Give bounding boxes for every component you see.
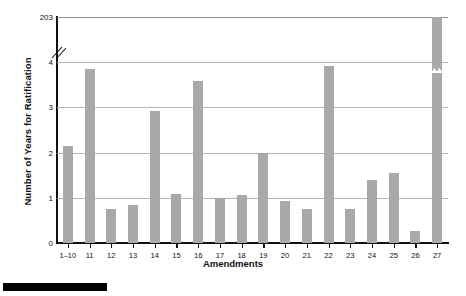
y-tick-label: 4 xyxy=(49,58,53,67)
bar-axis-break-icon xyxy=(432,59,442,66)
x-tick-mark xyxy=(155,243,156,248)
y-tick-label: 0 xyxy=(49,239,53,248)
top-rule xyxy=(57,17,448,18)
x-tick-mark xyxy=(220,243,221,248)
y-tick-label: 203 xyxy=(40,13,53,22)
bar xyxy=(258,153,268,244)
decorative-black-bar xyxy=(3,283,107,291)
x-tick-mark xyxy=(68,243,69,248)
x-tick-mark xyxy=(111,243,112,248)
bar xyxy=(389,173,399,243)
bar xyxy=(432,17,442,243)
x-tick-mark xyxy=(415,243,416,248)
x-tick-mark xyxy=(242,243,243,248)
bar xyxy=(345,209,355,243)
gridline xyxy=(57,153,448,154)
x-tick-mark xyxy=(372,243,373,248)
bar xyxy=(237,195,247,243)
x-tick-mark xyxy=(133,243,134,248)
bar xyxy=(128,205,138,243)
x-tick-mark xyxy=(329,243,330,248)
gridline xyxy=(57,62,448,63)
x-tick-mark xyxy=(90,243,91,248)
gridline xyxy=(57,107,448,108)
x-tick-mark xyxy=(285,243,286,248)
x-tick-mark xyxy=(437,243,438,248)
bar xyxy=(302,209,312,243)
x-tick-mark xyxy=(263,243,264,248)
x-tick-mark xyxy=(198,243,199,248)
y-tick-label: 3 xyxy=(49,103,53,112)
bar xyxy=(324,66,334,243)
bar xyxy=(106,209,116,243)
x-axis-title: Amendments xyxy=(0,258,466,269)
bar xyxy=(150,111,160,243)
x-tick-mark xyxy=(176,243,177,248)
x-tick-mark xyxy=(350,243,351,248)
bar-chart: Number of Years for Ratification 0123420… xyxy=(0,0,466,296)
bar xyxy=(367,180,377,243)
x-tick-mark xyxy=(307,243,308,248)
plot-area: 01234203 1–10111213141516171819202122232… xyxy=(57,17,448,243)
bar xyxy=(171,194,181,243)
y-tick-label: 1 xyxy=(49,193,53,202)
y-axis-title: Number of Years for Ratification xyxy=(22,27,33,237)
y-tick-label: 2 xyxy=(49,148,53,157)
bar xyxy=(85,69,95,243)
bar xyxy=(280,201,290,243)
bar xyxy=(193,81,203,243)
bar xyxy=(410,231,420,243)
x-tick-mark xyxy=(394,243,395,248)
bar xyxy=(215,198,225,243)
bar xyxy=(63,146,73,243)
